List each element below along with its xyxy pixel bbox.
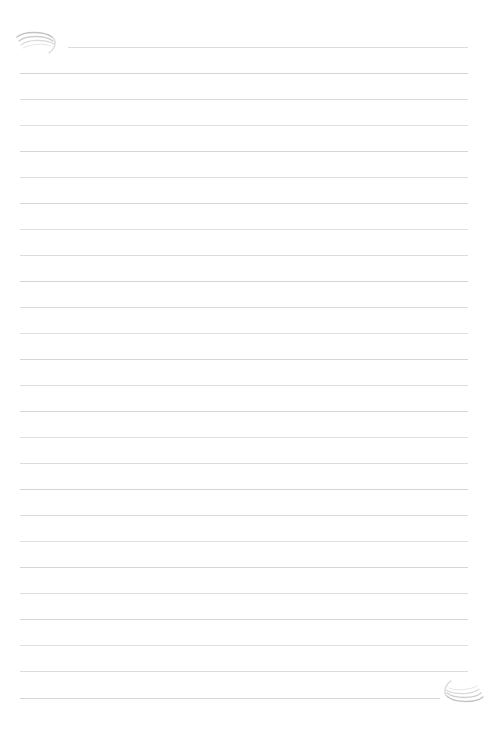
rule-line bbox=[20, 229, 468, 230]
rule-line bbox=[20, 593, 468, 594]
rule-line bbox=[20, 359, 468, 360]
rule-line bbox=[20, 619, 468, 620]
rule-line bbox=[20, 73, 468, 74]
rule-line bbox=[20, 567, 468, 568]
rule-line bbox=[20, 203, 468, 204]
rule-line bbox=[20, 698, 440, 699]
rule-line bbox=[20, 255, 468, 256]
rule-line bbox=[20, 671, 468, 672]
rule-line bbox=[20, 333, 468, 334]
rule-line bbox=[68, 47, 468, 48]
rule-line bbox=[20, 515, 468, 516]
rule-line bbox=[20, 489, 468, 490]
rule-line bbox=[20, 281, 468, 282]
rule-line bbox=[20, 99, 468, 100]
rule-line bbox=[20, 307, 468, 308]
rule-line bbox=[20, 177, 468, 178]
notepaper-page bbox=[0, 0, 490, 733]
rule-line bbox=[20, 385, 468, 386]
rule-line bbox=[20, 151, 468, 152]
rule-line bbox=[20, 541, 468, 542]
rule-line bbox=[20, 463, 468, 464]
swirl-flourish-icon bbox=[436, 678, 486, 706]
rule-line bbox=[20, 437, 468, 438]
rule-line bbox=[20, 125, 468, 126]
rule-line bbox=[20, 645, 468, 646]
rule-line bbox=[20, 411, 468, 412]
swirl-flourish-icon bbox=[14, 28, 64, 56]
